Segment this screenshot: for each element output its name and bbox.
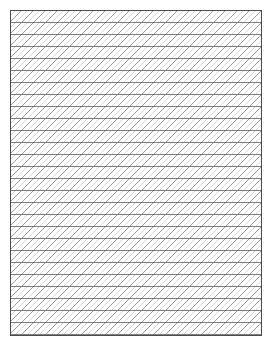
hatched-rectangle [10,10,262,336]
screenshot-canvas [0,0,272,345]
hatch-pattern-surface [10,10,262,336]
hatch-fill-area [10,10,262,336]
